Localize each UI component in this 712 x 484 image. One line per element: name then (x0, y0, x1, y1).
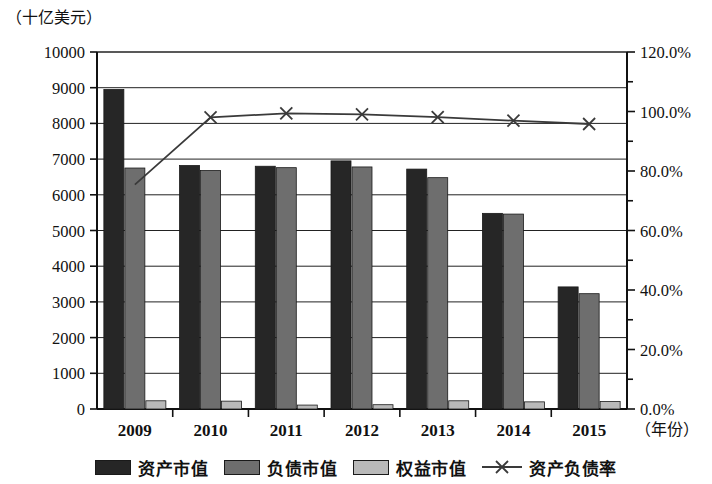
y-axis-tick-label: 1000 (52, 364, 85, 383)
x-axis-category-label: 2011 (270, 421, 303, 440)
legend-label: 资产负债率 (529, 455, 617, 480)
x-axis-category-label: 2010 (194, 421, 228, 440)
y2-axis-tick-label: 80.0% (640, 162, 683, 181)
legend-item-1: 负债市值 (224, 455, 337, 480)
bar-2010-0 (180, 166, 200, 409)
bar-2011-2 (297, 405, 317, 409)
bar-2009-0 (104, 89, 124, 409)
bar-2014-1 (503, 214, 523, 409)
y2-axis-tick-label: 40.0% (640, 281, 683, 300)
y-axis-tick-label: 4000 (52, 257, 85, 276)
bar-2010-2 (222, 401, 242, 409)
y-axis-tick-label: 6000 (52, 186, 85, 205)
legend-item-2: 权益市值 (353, 455, 466, 480)
legend-label: 资产市值 (138, 455, 208, 480)
x-axis-category-label: 2013 (421, 421, 455, 440)
legend-label: 负债市值 (267, 455, 337, 480)
bar-2010-1 (201, 171, 221, 409)
legend-mid-bar-swatch (224, 460, 260, 475)
bar-2011-0 (255, 166, 275, 409)
y2-axis-tick-label: 120.0% (640, 43, 691, 62)
bar-2014-2 (524, 402, 544, 409)
y2-axis-tick-label: 100.0% (640, 103, 691, 122)
x-axis-category-label: 2015 (572, 421, 606, 440)
bar-2009-2 (146, 401, 166, 409)
y2-axis-tick-label: 0.0% (640, 400, 675, 419)
bar-2015-2 (600, 402, 620, 409)
legend-line-marker-icon (482, 460, 522, 474)
bar-2013-2 (449, 401, 469, 409)
bar-2015-0 (558, 287, 578, 409)
bar-2013-0 (407, 169, 427, 409)
y-axis-tick-label: 10000 (44, 43, 85, 62)
y2-axis-tick-label: 20.0% (640, 341, 683, 360)
bar-2009-1 (125, 168, 145, 409)
bar-2011-1 (276, 168, 296, 409)
bar-2014-0 (482, 213, 502, 409)
x-axis-name-label: （年份） (635, 421, 699, 438)
legend-dark-bar-swatch (95, 460, 131, 475)
x-axis-category-label: 2009 (118, 421, 152, 440)
x-axis-category-label: 2014 (496, 421, 531, 440)
legend-label: 权益市值 (396, 455, 466, 480)
bar-2012-2 (373, 405, 393, 409)
y-axis-tick-label: 8000 (52, 114, 85, 133)
y-axis-tick-label: 0 (77, 400, 85, 419)
legend-light-bar-swatch (353, 460, 389, 475)
bar-2012-1 (352, 167, 372, 409)
bar-2015-1 (579, 294, 599, 409)
bar-2013-1 (428, 178, 448, 409)
chart-legend: 资产市值负债市值权益市值资产负债率 (0, 452, 712, 482)
x-axis-category-label: 2012 (345, 421, 379, 440)
bar-2012-0 (331, 161, 351, 409)
chart-plot-area: 0100020003000400050006000700080009000100… (0, 0, 712, 452)
y-axis-tick-label: 5000 (52, 222, 85, 241)
chart-container: （十亿美元） 010002000300040005000600070008000… (0, 0, 712, 484)
y-axis-tick-label: 9000 (52, 79, 85, 98)
y-axis-tick-label: 3000 (52, 293, 85, 312)
legend-item-3: 资产负债率 (482, 455, 617, 480)
y-axis-tick-label: 7000 (52, 150, 85, 169)
y-axis-tick-label: 2000 (52, 329, 85, 348)
legend-item-0: 资产市值 (95, 455, 208, 480)
y2-axis-tick-label: 60.0% (640, 222, 683, 241)
